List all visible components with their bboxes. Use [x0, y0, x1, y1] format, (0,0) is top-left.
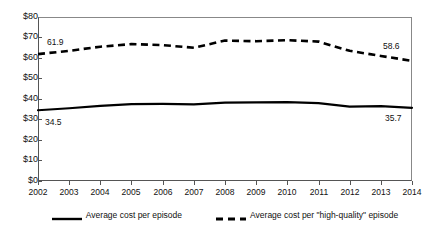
- y-tick-label: $40: [4, 94, 38, 103]
- x-tick-label: 2012: [333, 188, 367, 197]
- series-layer: [38, 17, 412, 181]
- legend-swatch-solid-line-icon: [52, 210, 82, 220]
- x-tick-label: 2004: [83, 188, 117, 197]
- y-tick-label: $70: [4, 32, 38, 41]
- annotation-last-high-quality: 58.6: [383, 42, 400, 51]
- x-tick-label: 2011: [302, 188, 336, 197]
- x-tick-mark: [194, 181, 195, 185]
- legend: Average cost per episode Average cost pe…: [38, 205, 412, 225]
- y-tick-label: $60: [4, 53, 38, 62]
- x-tick-mark: [225, 181, 226, 185]
- y-tick-label: $50: [4, 73, 38, 82]
- legend-entry-average-cost-per-high-quality-episode[interactable]: Average cost per "high-quality" episode: [216, 210, 398, 220]
- y-tick-label: $10: [4, 155, 38, 164]
- line-chart: $80 $70 $60 $50 $40 $30 $20 $10 $0: [0, 0, 430, 232]
- y-tick-label: $20: [4, 135, 38, 144]
- annotation-first-episode: 34.5: [45, 118, 62, 127]
- legend-swatch-dashed-line-icon: [216, 210, 246, 220]
- x-tick-mark: [131, 181, 132, 185]
- y-tick-label: $0: [4, 176, 38, 185]
- x-tick-mark: [381, 181, 382, 185]
- x-tick-mark: [163, 181, 164, 185]
- x-tick-label: 2008: [208, 188, 242, 197]
- y-tick-label: $80: [4, 12, 38, 21]
- x-tick-label: 2009: [239, 188, 273, 197]
- series-dashed-line: [38, 40, 412, 61]
- annotation-last-episode: 35.7: [385, 114, 402, 123]
- y-tick-label: $30: [4, 114, 38, 123]
- x-tick-label: 2010: [270, 188, 304, 197]
- x-tick-mark: [319, 181, 320, 185]
- x-tick-label: 2014: [395, 188, 429, 197]
- x-tick-mark: [350, 181, 351, 185]
- legend-entry-average-cost-per-episode[interactable]: Average cost per episode: [52, 210, 182, 220]
- y-axis: $80 $70 $60 $50 $40 $30 $20 $10 $0: [0, 0, 38, 232]
- x-tick-label: 2013: [364, 188, 398, 197]
- x-tick-mark: [412, 181, 413, 185]
- x-tick-mark: [256, 181, 257, 185]
- x-tick-label: 2006: [146, 188, 180, 197]
- x-tick-label: 2005: [114, 188, 148, 197]
- x-tick-mark: [100, 181, 101, 185]
- series-solid-line: [38, 102, 412, 110]
- legend-label: Average cost per "high-quality" episode: [250, 210, 398, 220]
- x-tick-label: 2003: [52, 188, 86, 197]
- x-tick-mark: [287, 181, 288, 185]
- x-tick-mark: [38, 181, 39, 185]
- legend-label: Average cost per episode: [86, 210, 182, 220]
- x-tick-label: 2007: [177, 188, 211, 197]
- annotation-first-high-quality: 61.9: [47, 38, 64, 47]
- x-tick-mark: [69, 181, 70, 185]
- x-tick-label: 2002: [21, 188, 55, 197]
